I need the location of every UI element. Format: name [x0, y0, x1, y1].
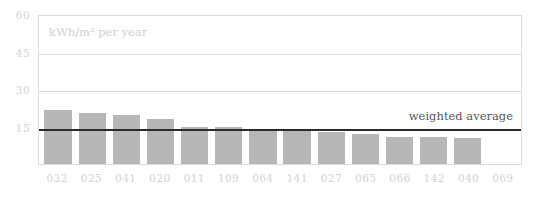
bar-slot: [246, 16, 280, 164]
weighted-average-label: weighted average: [409, 109, 513, 123]
x-tick-label: 142: [417, 168, 451, 198]
x-tick-label: 064: [246, 168, 280, 198]
bar-slot: [485, 16, 519, 164]
bar-slot: [143, 16, 177, 164]
bar-066[interactable]: [386, 137, 413, 165]
plot-area: kWh/m² per year weighted average: [38, 15, 522, 165]
y-tick-label-30: 30: [16, 84, 30, 96]
bar-040[interactable]: [454, 138, 481, 164]
x-tick-label: 025: [74, 168, 108, 198]
x-tick-label: 041: [109, 168, 143, 198]
bar-slot: [382, 16, 416, 164]
bar-025[interactable]: [79, 113, 106, 164]
x-tick-label: 066: [383, 168, 417, 198]
bar-109[interactable]: [215, 127, 242, 165]
bar-chart: 60 45 30 15 kWh/m² per year: [0, 0, 548, 204]
x-axis: 032 025 041 020 011 109 064 141 027 065 …: [38, 168, 522, 198]
bar-027[interactable]: [318, 132, 345, 165]
x-tick-label: 065: [349, 168, 383, 198]
x-tick-label: 040: [451, 168, 485, 198]
bar-slot: [314, 16, 348, 164]
bar-032[interactable]: [44, 110, 71, 164]
x-tick-label: 141: [280, 168, 314, 198]
x-tick-label: 109: [211, 168, 245, 198]
y-tick-label-60: 60: [16, 9, 30, 21]
y-tick-label-15: 15: [16, 122, 30, 134]
x-tick-label: 069: [486, 168, 520, 198]
bar-slot: [41, 16, 75, 164]
bar-slot: [75, 16, 109, 164]
x-tick-label: 011: [177, 168, 211, 198]
x-tick-label: 027: [314, 168, 348, 198]
y-axis: 60 45 30 15: [0, 0, 38, 204]
bar-slot: [212, 16, 246, 164]
bar-020[interactable]: [147, 119, 174, 164]
bar-slot: [109, 16, 143, 164]
bars-layer: [39, 16, 521, 164]
bar-slot: [178, 16, 212, 164]
bar-slot: [348, 16, 382, 164]
bar-141[interactable]: [283, 130, 310, 164]
x-tick-label: 032: [40, 168, 74, 198]
x-tick-label: 020: [143, 168, 177, 198]
bar-011[interactable]: [181, 127, 208, 165]
bar-065[interactable]: [352, 134, 379, 164]
bar-041[interactable]: [113, 115, 140, 164]
y-tick-label-45: 45: [16, 47, 30, 59]
bar-slot: [451, 16, 485, 164]
weighted-average-line: [39, 129, 521, 131]
bar-slot: [417, 16, 451, 164]
bar-slot: [280, 16, 314, 164]
bar-064[interactable]: [249, 129, 276, 164]
bar-142[interactable]: [420, 137, 447, 165]
